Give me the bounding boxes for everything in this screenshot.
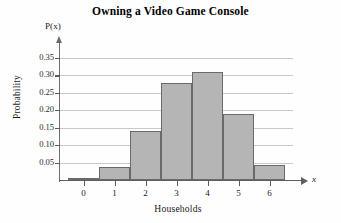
x-tick-label: 4 <box>196 188 220 198</box>
y-tick-label: 0.05 <box>26 157 54 167</box>
x-tick-label: 6 <box>258 188 282 198</box>
bar <box>99 167 130 180</box>
y-axis-title: Probability <box>12 49 22 145</box>
x-tick-label: 2 <box>134 188 158 198</box>
x-tick-mark <box>208 181 209 186</box>
y-tick-label: 0.10 <box>26 139 54 149</box>
x-tick-mark <box>84 181 85 186</box>
x-tick-mark <box>270 181 271 186</box>
chart-figure: Owning a Video Game Console P(x) Probabi… <box>0 0 341 223</box>
x-tick-label: 3 <box>165 188 189 198</box>
bar <box>192 72 223 180</box>
bar <box>130 131 161 180</box>
gridline <box>60 75 293 76</box>
y-tick-label: 0.20 <box>26 104 54 114</box>
x-axis-line <box>59 180 302 181</box>
x-tick-mark <box>177 181 178 186</box>
bar <box>161 83 192 180</box>
x-tick-mark <box>146 181 147 186</box>
x-tick-mark <box>115 181 116 186</box>
x-tick-label: 5 <box>227 188 251 198</box>
x-axis-title: Households <box>60 203 296 214</box>
y-tick-label: 0.35 <box>26 52 54 62</box>
gridline <box>60 58 293 59</box>
x-axis-variable-label: x <box>312 174 316 184</box>
y-tick-label: 0.25 <box>26 87 54 97</box>
x-axis-arrowhead-icon <box>301 177 308 185</box>
plot-area <box>60 50 295 180</box>
x-tick-mark <box>239 181 240 186</box>
x-tick-label: 1 <box>103 188 127 198</box>
y-tick-label: 0.30 <box>26 69 54 79</box>
y-tick-label-group: 0.050.100.150.200.250.300.35 <box>22 0 54 223</box>
bar <box>254 165 285 180</box>
y-tick-label: 0.15 <box>26 122 54 132</box>
x-tick-label: 0 <box>72 188 96 198</box>
bar <box>223 114 254 180</box>
